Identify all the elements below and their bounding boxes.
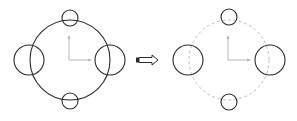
small-circle bbox=[62, 93, 78, 109]
small-circle bbox=[14, 45, 44, 75]
after-figure bbox=[173, 9, 285, 110]
arrow-body bbox=[139, 55, 158, 65]
small-circle bbox=[221, 9, 237, 25]
small-circle bbox=[173, 45, 203, 75]
transformation-diagram bbox=[0, 0, 297, 121]
x-arrowhead-icon bbox=[247, 59, 251, 62]
y-arrowhead-icon bbox=[227, 35, 230, 39]
diagram-canvas bbox=[0, 0, 297, 121]
small-circle bbox=[255, 45, 285, 75]
transform-arrow-icon bbox=[136, 55, 158, 65]
small-circle bbox=[221, 94, 237, 110]
y-arrowhead-icon bbox=[68, 35, 71, 39]
x-arrowhead-icon bbox=[88, 59, 92, 62]
before-figure bbox=[14, 10, 125, 109]
small-circle bbox=[62, 10, 78, 26]
